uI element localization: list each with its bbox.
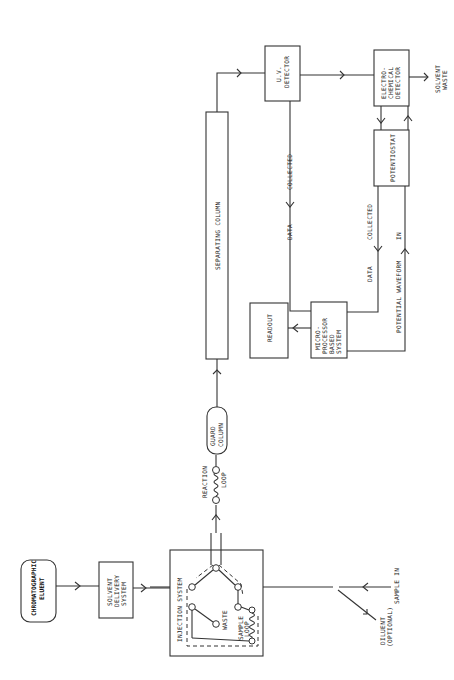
eluent-label-1: CHROMATOGRAPHIC [30,560,37,616]
solvent-delivery-system-node: SOLVENT DELIVERY SYSTEM [99,562,133,618]
waste-out-label: WASTE [441,70,448,90]
micro-label-4: SYSTEM [335,330,342,354]
guard-label: GUARD [209,426,216,446]
chromatographic-eluent-node: CHROMATOGRAPHIC ELUENT [21,560,56,622]
solvent-label-1: SOLVENT [106,578,113,606]
waste-label: WASTE [221,610,228,630]
detector-label: DETECTOR [283,56,290,88]
separating-column-node: SEPARATING COLUMN [206,112,228,359]
pot-data-label: DATA [366,266,373,282]
sample-in-label: SAMPLE IN [393,568,400,604]
uv-detector-node: U.V. DETECTOR [265,46,300,101]
flow-diagram: CHROMATOGRAPHIC ELUENT SOLVENT DELIVERY … [0,0,454,680]
potentiostat-label: POTENTIOSTAT [389,134,396,182]
reaction-loop-node: REACTION LOOP [201,466,227,533]
solvent-label-3: SYSTEM [120,582,127,606]
waveform-in-label: IN [395,232,402,240]
separating-column-label: SEPARATING COLUMN [214,202,221,270]
pot-data-line [347,186,378,312]
pot-collected-label: COLLECTED [366,204,373,240]
uv-data-label: DATA [286,224,293,240]
electrochemical-detector-node: ELECTRO- CHEMICAL DETECTOR [374,50,409,106]
loop-label: LOOP [220,472,227,488]
reaction-label: REACTION [201,466,208,498]
readout-label: READOUT [266,314,273,342]
potentiostat-node: POTENTIOSTAT [374,130,409,186]
ec-label-2: CHEMICAL [387,67,394,99]
uv-data-line [290,101,313,311]
ec-label-3: DETECTOR [394,67,401,99]
diluent-line [338,590,376,620]
micro-label-1: MICRO- [314,326,321,350]
micro-label-2: PROCESSOR [321,318,328,354]
diluent-label: DILUENT [379,617,386,645]
uv-label: U.V. [275,66,282,82]
waveform-label: POTENTIAL WAVEFORM [395,261,402,333]
guard-column-node: GUARD COLUMN [207,407,227,454]
micro-label-3: BASED [328,334,335,354]
column-label: COLUMN [217,423,224,447]
diluent-optional-label: (OPTIONAL) [386,607,393,647]
uv-collected-label: COLLECTED [286,154,293,190]
sample-loop-label-2: LOOP [243,621,250,637]
readout-node: READOUT [250,303,288,358]
injection-system-node: INJECTION SYSTEM WASTE SAMPLE LOOP [170,533,263,656]
microprocessor-node: MICRO- PROCESSOR BASED SYSTEM [311,302,347,358]
column-to-uv-line [217,73,265,112]
reaction-coil-icon [214,472,218,496]
injection-system-label: INJECTION SYSTEM [176,578,183,642]
ec-label-1: ELECTRO- [380,67,387,99]
solvent-label-2: DELIVERY [113,575,120,607]
solvent-waste-label: SOLVENT [434,65,441,93]
eluent-label-2: ELUENT [38,577,45,600]
